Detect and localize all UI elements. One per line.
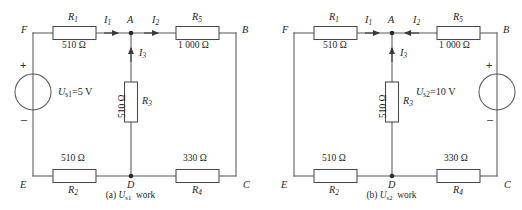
resistor-body-R2-b [314,170,357,183]
node-label-C: C [243,180,250,190]
resistor-label-R3-b: R3 [403,96,413,107]
node-label-E-b: E [281,180,287,190]
resistor-label-R5: R5 [192,12,202,23]
node-label-A-b: A [388,15,394,25]
node-dot-A-b [390,31,395,36]
current-label-I3: I3 [139,48,146,59]
resistor-body-R4-b [437,170,480,183]
circuit-panel-a: F A B C D E R1 510 Ω R5 1 000 Ω R3 510 Ω… [0,0,261,210]
node-label-E: E [20,180,26,190]
resistor-body-R2 [53,170,96,183]
circuit-panel-b: F A B C D E R1 510 Ω R5 1 000 Ω R3 510 Ω… [261,0,522,210]
source-minus-sign-b: – [487,114,493,125]
source-label-Us2: Us2=10 V [416,87,456,98]
node-label-C-b: C [504,180,511,190]
source-plus-sign-b: + [486,60,492,71]
current-label-I1: I1 [104,15,111,26]
resistor-label-R5-b: R5 [453,12,463,23]
resistor-body-R4 [176,170,219,183]
current-label-I2-b: I2 [413,15,420,26]
source-minus-sign-a: – [21,114,27,125]
resistor-body-R5 [176,27,219,40]
current-label-I1-b: I1 [365,15,372,26]
node-label-B: B [242,25,248,35]
resistor-label-R1-b: R1 [329,12,339,23]
resistor-value-R2: 510 Ω [61,154,85,164]
resistor-body-R1-b [314,27,357,40]
resistor-value-R4: 330 Ω [183,154,207,164]
node-label-D-b: D [388,180,395,190]
node-dot-A [129,31,134,36]
resistor-value-R5: 1 000 Ω [178,41,209,51]
resistor-label-R3: R3 [142,96,152,107]
figure-canvas: F A B C D E R1 510 Ω R5 1 000 Ω R3 510 Ω… [0,0,522,210]
node-label-A: A [127,15,133,25]
resistor-value-R5-b: 1 000 Ω [439,41,470,51]
panel-caption-a: (a) Us1 work [0,190,261,201]
resistor-value-R1-b: 510 Ω [323,41,347,51]
resistor-value-R1: 510 Ω [62,41,86,51]
node-label-F-b: F [282,25,288,35]
resistor-value-R3: 510 Ω [118,94,128,118]
node-label-F: F [21,25,27,35]
source-label-Us1: Us1=5 V [58,87,92,98]
source-plus-sign-a: + [20,60,26,71]
resistor-value-R3-b: 510 Ω [379,94,389,118]
node-dot-D [129,174,134,179]
resistor-body-R5-b [437,27,480,40]
node-dot-D-b [390,174,395,179]
current-label-I2: I2 [152,15,159,26]
resistor-label-R1: R1 [68,12,78,23]
resistor-value-R4-b: 330 Ω [444,154,468,164]
resistor-value-R2-b: 510 Ω [322,154,346,164]
node-label-B-b: B [503,25,509,35]
node-label-D: D [127,180,134,190]
current-label-I3-b: I3 [400,48,407,59]
panel-caption-b: (b) Us2 work [261,190,522,201]
resistor-body-R1 [53,27,96,40]
